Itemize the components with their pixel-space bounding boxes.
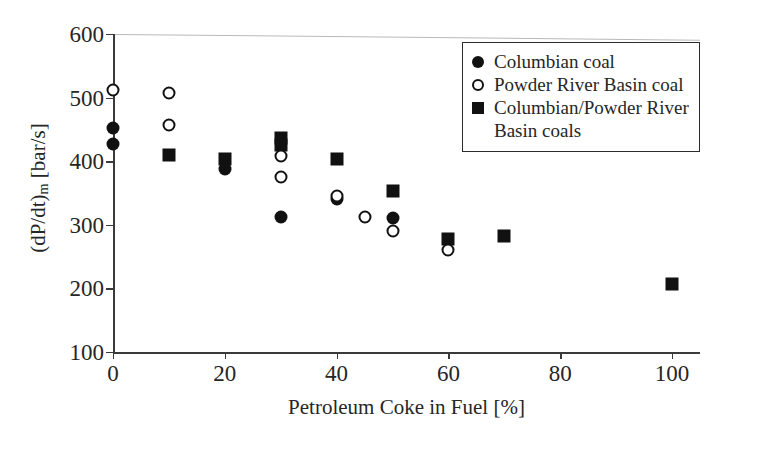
data-point-filled-square (386, 185, 399, 198)
legend-marker-glyph (472, 79, 484, 91)
y-tick-mark (106, 34, 113, 35)
x-axis-title: Petroleum Coke in Fuel [%] (113, 395, 700, 420)
data-point-filled-circle (218, 162, 231, 175)
data-point-filled-square (162, 149, 175, 162)
data-point-filled-square (498, 230, 511, 243)
x-tick-mark (672, 352, 673, 359)
legend-filled-square-icon (472, 97, 494, 119)
legend-item-label-continued: Basin coals (472, 120, 689, 142)
y-tick-label: 100 (70, 341, 105, 364)
x-axis-line (113, 352, 700, 354)
x-tick-label: 100 (655, 362, 690, 385)
x-tick-mark (113, 352, 114, 359)
data-point-open-circle (274, 171, 287, 184)
y-tick-mark (106, 288, 113, 289)
legend-item: Columbian/Powder River (472, 97, 689, 119)
data-point-filled-square (666, 277, 679, 290)
y-axis-line (113, 34, 115, 352)
data-point-open-circle (358, 211, 371, 224)
legend-filled-circle-icon (472, 51, 494, 73)
y-tick-label: 300 (70, 213, 105, 236)
legend-marker-glyph (472, 102, 484, 114)
legend-item: Columbian coal (472, 51, 689, 73)
x-tick-mark (225, 352, 226, 359)
data-point-filled-circle (107, 122, 120, 135)
x-tick-label: 60 (437, 362, 460, 385)
data-point-open-circle (274, 150, 287, 163)
figure-canvas: 100200300400500600 020406080100 Petroleu… (0, 0, 760, 449)
data-point-filled-circle (274, 211, 287, 224)
legend-open-circle-icon (472, 74, 494, 96)
x-tick-label: 20 (213, 362, 236, 385)
y-tick-mark (106, 98, 113, 99)
plot-frame-top-rule (113, 34, 700, 41)
data-point-open-circle (162, 86, 175, 99)
x-tick-label: 80 (549, 362, 572, 385)
x-tick-mark (337, 352, 338, 359)
legend-item-label: Columbian/Powder River (494, 97, 689, 119)
legend-item-label: Columbian coal (494, 51, 689, 73)
y-axis-title: (dP/dt)m [bar/s] (26, 73, 52, 303)
legend-marker-glyph (472, 56, 484, 68)
y-axis-title-base: (dP/dt) (26, 194, 50, 252)
y-tick-label: 200 (70, 277, 105, 300)
x-tick-mark (560, 352, 561, 359)
data-point-open-circle (442, 243, 455, 256)
data-point-open-circle (386, 225, 399, 238)
data-point-filled-circle (386, 212, 399, 225)
y-axis-title-unit: [bar/s] (26, 123, 50, 183)
x-tick-label: 40 (325, 362, 348, 385)
y-tick-label: 600 (70, 23, 105, 46)
legend-box: Columbian coalPowder River Basin coalCol… (462, 42, 700, 152)
data-point-open-circle (107, 83, 120, 96)
y-tick-mark (106, 225, 113, 226)
x-tick-label: 0 (107, 362, 119, 385)
data-point-filled-circle (107, 138, 120, 151)
data-point-filled-square (330, 153, 343, 166)
y-tick-label: 500 (70, 86, 105, 109)
legend-item-label: Powder River Basin coal (494, 74, 689, 96)
y-axis-title-subscript: m (35, 183, 51, 194)
legend-item: Powder River Basin coal (472, 74, 689, 96)
y-tick-label: 400 (70, 150, 105, 173)
y-tick-mark (106, 352, 113, 353)
data-point-open-circle (162, 118, 175, 131)
x-tick-mark (448, 352, 449, 359)
data-point-open-circle (330, 190, 343, 203)
y-tick-mark (106, 161, 113, 162)
